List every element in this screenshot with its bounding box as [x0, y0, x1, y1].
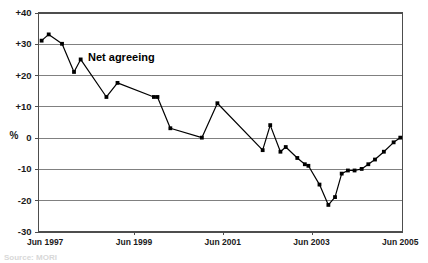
- net-agreeing-line-chart: +40+30+20+100-10-20-30 Jun 1997Jun 1999J…: [0, 0, 428, 263]
- data-point-marker: [295, 156, 299, 160]
- data-point-marker: [366, 162, 370, 166]
- data-point-marker: [346, 169, 350, 173]
- data-point-marker: [79, 58, 83, 62]
- source-note: Source: MORI: [4, 253, 57, 262]
- data-point-marker: [105, 95, 109, 99]
- series-annotation-label: Net agreeing: [88, 51, 155, 63]
- data-point-marker: [326, 203, 330, 207]
- data-point-marker: [116, 81, 120, 85]
- x-tick-label-jun-2001: Jun 2001: [205, 237, 242, 247]
- data-point-marker: [215, 101, 219, 105]
- data-point-marker: [284, 145, 288, 149]
- data-point-marker: [340, 172, 344, 176]
- data-point-marker: [303, 162, 307, 166]
- data-point-marker: [200, 136, 204, 140]
- data-point-marker: [360, 167, 364, 171]
- data-point-marker: [353, 169, 357, 173]
- y-axis-tick-labels: +40+30+20+100-10-20-30: [15, 7, 31, 237]
- y-tick-label-+10: +10: [15, 101, 31, 112]
- x-axis-tick-labels: Jun 1997Jun 1999Jun 2001Jun 2003Jun 2005: [27, 232, 419, 248]
- y-axis-title: %: [10, 130, 19, 141]
- data-point-marker: [382, 150, 386, 154]
- x-tick-label-jun-2003: Jun 2003: [293, 237, 330, 247]
- data-point-marker: [398, 136, 402, 140]
- data-point-marker: [392, 140, 396, 144]
- data-point-marker: [279, 150, 283, 154]
- y-tick-label-0: 0: [26, 132, 31, 143]
- data-point-marker: [168, 126, 172, 130]
- y-tick-label-+20: +20: [15, 70, 31, 81]
- data-point-marker: [72, 70, 76, 74]
- data-point-marker: [152, 95, 156, 99]
- data-point-marker: [40, 39, 44, 43]
- x-tick-label-jun-2005: Jun 2005: [382, 237, 419, 247]
- y-tick-label--10: -10: [18, 163, 32, 174]
- data-point-marker: [268, 123, 272, 127]
- data-point-marker: [156, 95, 160, 99]
- y-tick-label--20: -20: [18, 195, 32, 206]
- y-tick-label-+30: +30: [15, 38, 31, 49]
- data-point-marker: [60, 42, 64, 46]
- data-point-marker: [47, 33, 51, 37]
- x-tick-label-jun-1997: Jun 1997: [27, 237, 64, 247]
- data-point-marker: [373, 158, 377, 162]
- data-point-marker: [318, 183, 322, 187]
- data-point-marker: [333, 195, 337, 199]
- plot-area-border: [39, 13, 403, 232]
- data-point-marker: [306, 164, 310, 168]
- data-point-marker: [261, 148, 265, 152]
- y-tick-label-+40: +40: [15, 7, 31, 18]
- gridlines: [35, 14, 403, 233]
- x-tick-label-jun-1999: Jun 1999: [116, 237, 153, 247]
- chart-canvas: +40+30+20+100-10-20-30 Jun 1997Jun 1999J…: [0, 0, 428, 263]
- y-tick-label--30: -30: [18, 226, 32, 237]
